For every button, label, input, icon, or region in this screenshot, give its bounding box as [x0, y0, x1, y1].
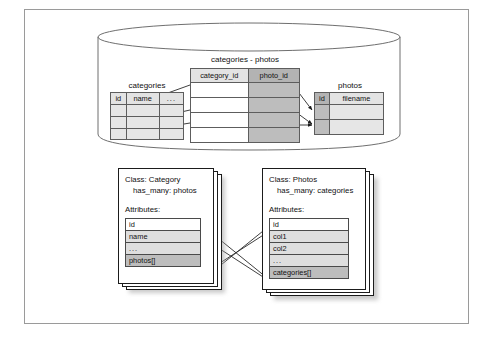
cell — [111, 117, 127, 129]
cell — [126, 117, 159, 129]
cell — [191, 113, 249, 128]
cell — [159, 105, 183, 117]
cell — [329, 105, 383, 120]
cell — [111, 105, 127, 117]
table-row — [111, 117, 184, 129]
class-has-many: has_many: categories — [277, 186, 353, 195]
list-item: name — [126, 231, 201, 243]
class-card-category: Class: Category has_many: photos Attribu… — [118, 168, 222, 290]
cell — [126, 129, 159, 140]
join-col-photo-id: photo_id — [248, 69, 299, 83]
list-item: id — [270, 219, 349, 231]
cell — [126, 105, 159, 117]
attribute-col2: col2 — [270, 243, 349, 255]
photos-table-caption: photos — [315, 81, 385, 90]
table-row — [315, 105, 384, 120]
attribute-list: id name ... photos[] — [125, 218, 201, 267]
categories-col-more: ... — [159, 93, 183, 105]
attribute-id: id — [126, 219, 201, 231]
cell — [248, 98, 299, 113]
categories-col-id: id — [111, 93, 127, 105]
list-item: ... — [270, 255, 349, 267]
table-header-row: id name ... — [111, 93, 184, 105]
attribute-categories-array: categories[] — [270, 267, 349, 279]
join-table-caption: categories - photos — [189, 55, 301, 64]
list-item: photos[] — [126, 255, 201, 267]
card-content: Class: Photos has_many: categories Attri… — [262, 168, 364, 288]
table-row — [315, 120, 384, 135]
join-table: category_id photo_id — [190, 68, 300, 143]
class-has-many: has_many: photos — [133, 186, 197, 195]
photos-table: id filename — [314, 92, 384, 135]
cell — [248, 83, 299, 98]
table-row — [191, 98, 300, 113]
join-col-category-id: category_id — [191, 69, 249, 83]
table-row — [111, 105, 184, 117]
table-row — [111, 129, 184, 140]
attributes-label: Attributes: — [269, 205, 304, 214]
table-header-row: category_id photo_id — [191, 69, 300, 83]
cell — [315, 120, 330, 135]
photos-col-id: id — [315, 93, 330, 105]
cell — [248, 113, 299, 128]
categories-col-name: name — [126, 93, 159, 105]
list-item: categories[] — [270, 267, 349, 279]
cell — [191, 83, 249, 98]
table-row — [191, 113, 300, 128]
list-item: ... — [126, 243, 201, 255]
cell — [329, 120, 383, 135]
photos-col-filename: filename — [329, 93, 383, 105]
cell — [111, 129, 127, 140]
list-item: id — [126, 219, 201, 231]
cell — [315, 105, 330, 120]
class-title: Class: Photos — [269, 175, 317, 184]
card-content: Class: Category has_many: photos Attribu… — [118, 168, 212, 282]
list-item: col1 — [270, 231, 349, 243]
attribute-name: name — [126, 231, 201, 243]
cell — [191, 128, 249, 143]
cell — [191, 98, 249, 113]
attribute-list: id col1 col2 ... categories[] — [269, 218, 349, 279]
cell — [248, 128, 299, 143]
table-row — [191, 128, 300, 143]
attribute-col1: col1 — [270, 231, 349, 243]
figure-root: categories id name ... categories - phot… — [0, 0, 493, 340]
attributes-label: Attributes: — [125, 205, 160, 214]
class-title: Class: Category — [125, 175, 180, 184]
categories-table-caption: categories — [112, 81, 182, 90]
attribute-more: ... — [270, 255, 349, 267]
cell — [159, 117, 183, 129]
cell — [159, 129, 183, 140]
table-row — [191, 83, 300, 98]
list-item: col2 — [270, 243, 349, 255]
table-header-row: id filename — [315, 93, 384, 105]
attribute-photos-array: photos[] — [126, 255, 201, 267]
attribute-more: ... — [126, 243, 201, 255]
class-card-photos: Class: Photos has_many: categories Attri… — [262, 168, 380, 296]
attribute-id: id — [270, 219, 349, 231]
categories-table: id name ... — [110, 92, 184, 140]
